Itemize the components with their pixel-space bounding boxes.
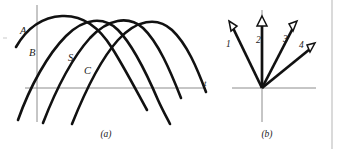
vector-1-arrowhead	[229, 21, 237, 31]
panel-a-x-axis-label: t	[204, 78, 207, 88]
curve-label-a: A	[19, 25, 27, 36]
vector-3-arrowhead	[289, 21, 297, 31]
panel-a-caption: (a)	[100, 129, 111, 140]
vector-3-shaft	[262, 28, 293, 88]
vector-label-3: 3	[282, 34, 288, 44]
vector-label-2: 2	[256, 35, 261, 45]
figure-svg: A B S C t (a)	[0, 0, 342, 149]
vector-2-arrowhead	[257, 16, 267, 26]
curve-label-c: C	[84, 65, 92, 76]
curve-label-b: B	[29, 47, 36, 58]
figure-container: A B S C t (a)	[0, 0, 342, 149]
vector-label-4: 4	[299, 40, 304, 50]
panel-b: 1 2 3 4 (b)	[226, 10, 316, 140]
panel-a: A B S C t (a)	[16, 5, 207, 140]
curve-label-s: S	[68, 52, 74, 63]
panel-b-caption: (b)	[261, 129, 272, 140]
vector-4-shaft	[262, 49, 310, 88]
vector-label-1: 1	[226, 39, 231, 49]
